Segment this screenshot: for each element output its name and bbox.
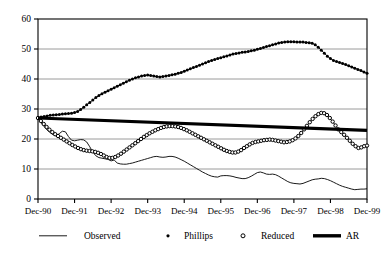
series-marker [241,51,244,54]
series-marker [348,139,351,142]
series-marker [94,96,97,99]
series-marker [116,85,119,88]
series-marker [362,71,365,74]
series-marker [137,75,140,78]
series-marker [186,69,189,72]
series-marker [277,42,280,45]
legend-small-filled-dot-icon [166,234,169,237]
series-marker [328,116,331,119]
legend-label: AR [346,231,360,241]
series-marker [198,64,201,67]
series-marker [222,55,225,58]
series-marker [164,75,167,78]
series-marker [128,79,131,82]
series-marker [195,65,198,68]
series-marker [100,92,103,95]
series-marker [228,54,231,57]
series-marker [238,51,241,54]
series-marker [64,112,67,115]
series-marker [201,63,204,66]
series-marker [155,75,158,78]
series-marker [174,73,177,76]
series-marker [171,73,174,76]
series-marker [82,106,85,109]
series-marker [320,49,323,52]
x-tick-label: Dec-91 [61,206,88,216]
series-marker [231,53,234,56]
series-marker [338,61,341,64]
series-marker [152,75,155,78]
series-marker [192,66,195,69]
series-marker [317,46,320,49]
x-tick-label: Dec-92 [98,206,125,216]
series-marker [104,91,107,94]
series-marker [350,66,353,69]
series-marker [204,61,207,64]
series-marker [67,112,70,115]
legend-open-circle-icon [241,234,245,238]
series-marker [143,74,146,77]
legend-label: Phillips [184,231,213,241]
series-marker [55,113,58,116]
x-tick-label: Dec-99 [354,206,381,216]
legend-label: Reduced [261,231,294,241]
series-marker [158,75,161,78]
series-marker [225,54,228,57]
series-marker [250,49,253,52]
series-marker [189,67,192,70]
series-marker [42,122,45,125]
series-marker [97,94,100,97]
series-marker [308,41,311,44]
series-marker [122,82,125,85]
series-marker [253,49,256,52]
series-marker [359,69,362,72]
series-marker [345,136,348,139]
series-marker [76,110,79,113]
series-marker [39,119,42,122]
series-marker [244,51,247,54]
series-marker [213,58,216,61]
series-marker [85,103,88,106]
x-tick-label: Dec-90 [25,206,52,216]
y-tick-label: 20 [22,134,32,144]
series-marker [180,71,183,74]
legend-label: Observed [84,231,121,241]
series-marker [365,144,368,147]
series-marker [113,86,116,89]
series-marker [146,74,149,77]
series-marker [308,121,311,124]
series-marker [149,74,152,77]
series-marker [216,57,219,60]
series-marker [271,43,274,46]
series-marker [73,111,76,114]
series-marker [292,40,295,43]
series-marker [334,124,337,127]
series-marker [262,46,265,49]
series-marker [311,42,314,45]
series-marker [183,70,186,73]
series-marker [268,44,271,47]
series-marker [347,64,350,67]
series-marker [110,88,113,91]
series-marker [134,76,137,79]
y-tick-label: 30 [22,104,32,114]
series-marker [297,134,300,137]
series-marker [125,80,128,83]
series-marker [45,125,48,128]
series-marker [52,114,55,117]
series-marker [305,41,308,44]
y-tick-label: 10 [22,164,32,174]
series-marker [280,41,283,44]
series-marker [219,56,222,59]
series-marker [259,47,262,50]
series-marker [235,52,238,55]
x-tick-label: Dec-98 [317,206,344,216]
series-marker [283,41,286,44]
series-marker [289,40,292,43]
y-tick-label: 60 [22,14,32,24]
series-marker [342,133,345,136]
series-marker [353,67,356,70]
series-marker [177,72,180,75]
series-marker [314,43,317,46]
series-marker [311,117,314,120]
